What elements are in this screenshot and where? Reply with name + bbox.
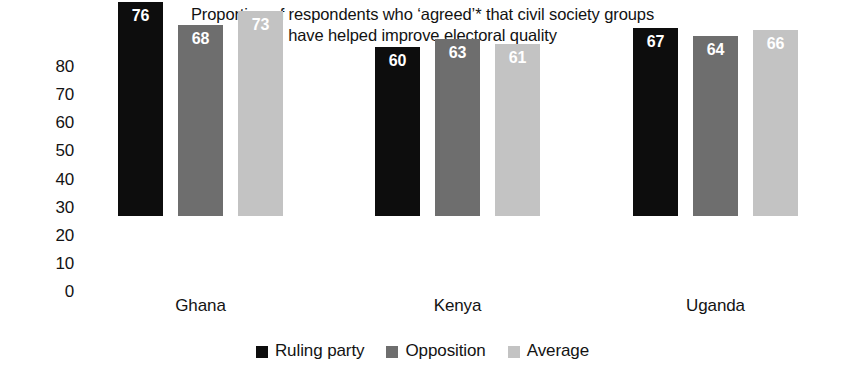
bar-value-label: 67 — [633, 33, 678, 51]
category-label-kenya: Kenya — [375, 296, 540, 315]
bar-uganda-opposition: 64 — [693, 36, 738, 216]
bar-kenya-average: 61 — [495, 44, 540, 216]
legend-label: Ruling party — [275, 341, 365, 360]
bar-ghana-opposition: 68 — [178, 25, 223, 216]
bar-value-label: 60 — [375, 52, 420, 70]
bar-ghana-ruling-party: 76 — [118, 2, 163, 216]
legend-swatch-icon — [386, 346, 398, 358]
bars-layer: 766873Ghana606361Kenya676466Uganda — [0, 0, 845, 300]
bar-value-label: 68 — [178, 30, 223, 48]
legend-swatch-icon — [256, 346, 268, 358]
legend-item-average[interactable]: Average — [508, 341, 589, 360]
bar-value-label: 63 — [435, 44, 480, 62]
legend-item-opposition[interactable]: Opposition — [386, 341, 485, 360]
bar-uganda-ruling-party: 67 — [633, 28, 678, 216]
category-label-ghana: Ghana — [118, 296, 283, 315]
bar-kenya-ruling-party: 60 — [375, 47, 420, 216]
legend-swatch-icon — [508, 346, 520, 358]
bar-uganda-average: 66 — [753, 30, 798, 216]
legend-label: Opposition — [405, 341, 485, 360]
bar-ghana-average: 73 — [238, 11, 283, 216]
bar-value-label: 61 — [495, 49, 540, 67]
legend-label: Average — [527, 341, 589, 360]
legend-item-ruling-party[interactable]: Ruling party — [256, 341, 365, 360]
bar-value-label: 76 — [118, 7, 163, 25]
bar-value-label: 73 — [238, 16, 283, 34]
bar-value-label: 66 — [753, 35, 798, 53]
plot-area: 80706050403020100 766873Ghana606361Kenya… — [0, 0, 845, 300]
bar-kenya-opposition: 63 — [435, 39, 480, 216]
chart-legend: Ruling partyOppositionAverage — [0, 341, 845, 360]
category-label-uganda: Uganda — [633, 296, 798, 315]
bar-value-label: 64 — [693, 41, 738, 59]
